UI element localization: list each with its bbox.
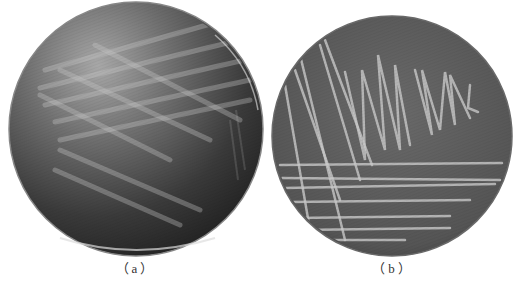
caption-b: （b）	[372, 258, 414, 277]
plate-a	[9, 2, 263, 256]
figure: （a） （b）	[0, 0, 524, 285]
plate-b	[272, 16, 512, 256]
petri-dishes	[0, 0, 524, 285]
caption-a: （a）	[116, 258, 157, 277]
